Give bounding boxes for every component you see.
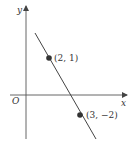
coordinate-diagram: y x O (2, 1) (3, −2)	[0, 0, 133, 146]
point-label-2-1: (2, 1)	[54, 53, 78, 63]
y-axis-label: y	[16, 5, 23, 15]
point-2-1	[46, 55, 52, 61]
x-axis-label: x	[121, 98, 126, 108]
point-label-3-neg2: (3, −2)	[86, 110, 118, 120]
graph-line	[35, 33, 96, 139]
origin-label: O	[12, 96, 20, 106]
point-3-neg2	[77, 112, 83, 118]
